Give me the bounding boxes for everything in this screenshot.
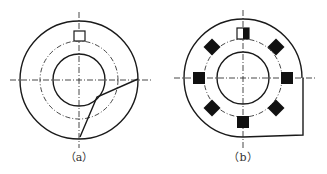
- diamond-marker-bottom-left: [204, 100, 221, 117]
- slot-marker: [74, 31, 85, 41]
- cut-line: [80, 79, 138, 137]
- panel-a: [10, 12, 152, 148]
- diamond-marker-top-right: [268, 39, 285, 56]
- diamond-marker-bottom-right: [268, 100, 285, 117]
- caption-b: （b）: [228, 148, 257, 164]
- square-marker-bottom: [237, 116, 249, 128]
- diamond-marker-top-left: [204, 39, 221, 56]
- square-marker-left: [193, 72, 205, 84]
- caption-a: （a）: [65, 148, 94, 164]
- panel-b: [174, 10, 316, 148]
- diagram-canvas: [0, 0, 327, 174]
- top-marker-fill: [243, 28, 249, 39]
- square-marker-right: [281, 72, 293, 84]
